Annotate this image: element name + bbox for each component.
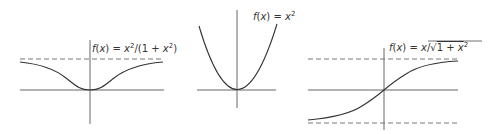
label-parabola: f(x) = x2 [253, 10, 295, 22]
curve-parabola [199, 24, 277, 90]
figure-canvas: f(x) = x2/(1 + x2) f(x) = x2 f(x) = x/√1… [0, 0, 492, 134]
curve-sigmoid [308, 61, 458, 120]
label-sigmoid: f(x) = x/√1 + x2 [389, 41, 468, 53]
graph-rational: f(x) = x2/(1 + x2) [20, 40, 177, 124]
graph-parabola: f(x) = x2 [197, 10, 295, 108]
graph-sigmoid: f(x) = x/√1 + x2 [308, 41, 482, 130]
label-rational: f(x) = x2/(1 + x2) [92, 42, 177, 54]
curve-rational [20, 62, 163, 90]
